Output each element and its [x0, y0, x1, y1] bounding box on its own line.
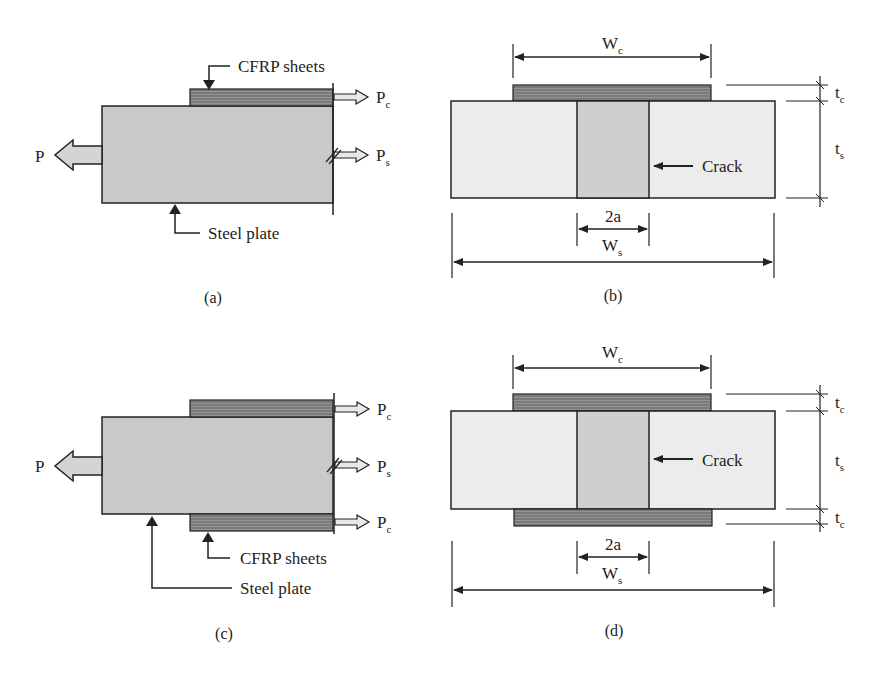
load-arrow-left-icon [55, 451, 102, 481]
load-label: P [35, 147, 44, 166]
crack-region [577, 411, 649, 509]
steel-plate [102, 417, 333, 514]
ps-label: Ps [377, 457, 391, 479]
tc-label: tc [835, 393, 845, 415]
wc-label: Wc [602, 34, 623, 56]
pc-label: Pc [377, 400, 391, 422]
pc-arrow-icon [334, 90, 368, 104]
ps-label: Ps [376, 146, 390, 168]
pointer-arrowhead-icon [202, 532, 214, 542]
wc-label: Wc [602, 343, 623, 365]
cfrp-sheet-top [513, 394, 711, 411]
load-label: P [35, 457, 44, 476]
steel-pointer [152, 522, 232, 588]
ws-label: Ws [602, 236, 622, 258]
crack-width-label: 2a [605, 207, 622, 226]
crack-region [577, 101, 649, 198]
caption-c: (c) [215, 625, 233, 643]
cfrp-steel-diagram: P Pc Ps CFRP sheets Steel plate (a) Wc C… [0, 0, 885, 673]
steel-plate [102, 106, 333, 203]
steel-label: Steel plate [208, 224, 279, 243]
tc2-label: tc [835, 508, 845, 530]
pc2-arrow-icon [335, 515, 369, 529]
cfrp-sheet-top [190, 400, 333, 417]
load-arrow-left-icon [55, 140, 102, 170]
ws-label: Ws [602, 564, 622, 586]
crack-label: Crack [702, 157, 743, 176]
panel-b: Wc Crack tc ts 2a Ws (b) [451, 34, 845, 305]
pc-label: Pc [376, 88, 390, 110]
pc2-label: Pc [377, 513, 391, 535]
panel-a: P Pc Ps CFRP sheets Steel plate (a) [35, 57, 390, 307]
caption-d: (d) [605, 622, 624, 640]
crack-label: Crack [702, 451, 743, 470]
crack-width-label: 2a [605, 535, 622, 554]
ps-arrow-icon [335, 458, 369, 472]
steel-label: Steel plate [240, 579, 311, 598]
tc-label: tc [835, 83, 845, 105]
panel-c: P Pc Ps Pc CFRP sheets Steel plate (c) [35, 393, 391, 643]
ts-label: ts [835, 451, 844, 473]
ts-label: ts [835, 139, 844, 161]
cfrp-sheet-top [190, 89, 333, 106]
caption-b: (b) [604, 287, 623, 305]
cfrp-sheet-bottom [514, 509, 712, 526]
caption-a: (a) [204, 289, 222, 307]
panel-d: Wc Crack tc ts tc 2a Ws (d) [451, 343, 845, 640]
ps-arrow-icon [334, 148, 368, 162]
pointer-arrowhead-icon [146, 516, 158, 526]
cfrp-sheet-top [513, 85, 711, 101]
pc-arrow-icon [335, 402, 369, 416]
cfrp-label: CFRP sheets [240, 549, 327, 568]
cfrp-label: CFRP sheets [238, 57, 325, 76]
pointer-arrowhead-icon [169, 204, 181, 214]
cfrp-sheet-bottom [190, 514, 333, 531]
